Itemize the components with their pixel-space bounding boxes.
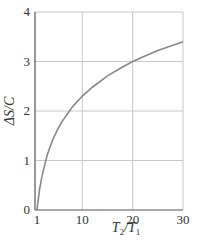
y-axis-label: ΔS/C — [2, 96, 17, 126]
x-tick-label: 10 — [76, 212, 89, 227]
y-tick-label: 4 — [24, 4, 31, 19]
data-curve — [37, 42, 183, 210]
y-tick-label: 0 — [24, 202, 31, 217]
gridlines — [35, 12, 183, 210]
y-tick-label: 3 — [24, 54, 31, 69]
y-tick-labels: 01234 — [24, 4, 31, 217]
x-tick-label: 1 — [34, 212, 41, 227]
y-tick-label: 1 — [24, 153, 31, 168]
x-tick-label: 30 — [177, 212, 190, 227]
chart-svg: 01234 1102030 ΔS/C T2/T1 — [0, 0, 198, 250]
y-tick-label: 2 — [24, 103, 31, 118]
